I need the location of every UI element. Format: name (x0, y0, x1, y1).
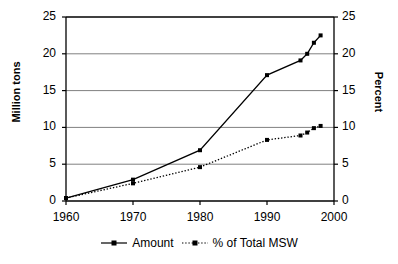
data-point (131, 181, 135, 185)
axis-frame (66, 17, 334, 201)
data-point (265, 73, 269, 77)
data-series-group (64, 33, 323, 200)
data-point (312, 41, 316, 45)
chart-legend: Amount % of Total MSW (0, 236, 398, 250)
tick-marks (62, 17, 338, 205)
plot-area (0, 0, 398, 264)
legend-swatch-dotted-line-icon (181, 237, 209, 249)
data-point (299, 134, 303, 138)
legend-swatch-solid-line-icon (100, 237, 128, 249)
data-point (305, 52, 309, 56)
data-point (319, 124, 323, 128)
data-point (131, 178, 135, 182)
data-point (64, 196, 68, 200)
data-point (198, 165, 202, 169)
data-point (312, 126, 316, 130)
data-point (319, 33, 323, 37)
data-point (198, 148, 202, 152)
legend-item-amount: Amount (100, 236, 173, 250)
data-point (299, 58, 303, 62)
legend-label-amount: Amount (132, 236, 173, 250)
series-line-amount (66, 35, 321, 198)
data-point (265, 138, 269, 142)
legend-label-percent-of-total-msw: % of Total MSW (213, 236, 298, 250)
gridlines (66, 17, 334, 201)
legend-item-percent-of-total-msw: % of Total MSW (181, 236, 298, 250)
chart-container: Million tons Percent 0510152025 05101520… (0, 0, 398, 264)
data-point (305, 131, 309, 135)
